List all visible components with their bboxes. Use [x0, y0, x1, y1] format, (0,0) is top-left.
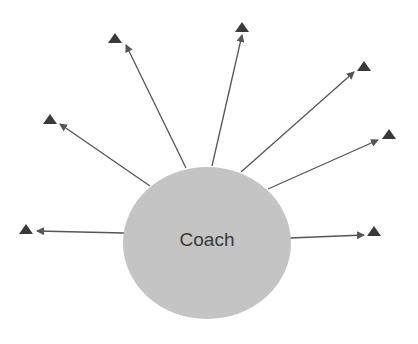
triangle-marker-icon: [367, 226, 381, 236]
spoke-arrow-6: [268, 140, 378, 189]
spoke-arrow-3: [126, 45, 186, 168]
spoke-arrow-7: [290, 235, 364, 238]
triangle-marker-icon: [382, 129, 396, 139]
spoke-arrow-4: [212, 35, 242, 166]
triangle-marker-icon: [43, 114, 57, 124]
spoke-arrow-2: [60, 124, 150, 186]
triangle-marker-icon: [357, 61, 371, 71]
triangle-marker-icon: [235, 22, 249, 32]
coach-network-diagram: Coach: [0, 0, 418, 344]
triangle-marker-icon: [19, 224, 33, 234]
triangle-marker-icon: [108, 33, 122, 43]
coach-label: Coach: [180, 229, 235, 250]
spoke-arrow-1: [37, 231, 124, 233]
spoke-arrow-5: [241, 72, 354, 172]
